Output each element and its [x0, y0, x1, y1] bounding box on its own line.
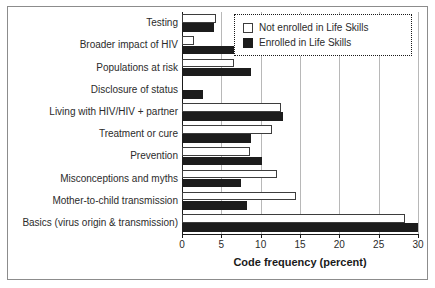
bar-not-enrolled [182, 36, 194, 45]
tick-label-30: 30 [412, 239, 423, 250]
category-label: Populations at risk [96, 62, 178, 73]
bar-not-enrolled [182, 147, 250, 156]
tick-mark-20 [339, 234, 340, 238]
category-label: Mother-to-child transmission [52, 195, 178, 206]
bar-not-enrolled [182, 14, 216, 23]
bar-enrolled [182, 46, 236, 55]
bar-group [182, 123, 418, 145]
bar-enrolled [182, 179, 241, 188]
chart-legend: Not enrolled in Life Skills Enrolled in … [234, 14, 412, 56]
tick-mark-5 [221, 234, 222, 238]
bar-group [182, 167, 418, 189]
bar-enrolled [182, 223, 418, 232]
bar-group [182, 190, 418, 212]
legend-swatch-light [243, 23, 253, 33]
category-label: Living with HIV/HIV + partner [49, 106, 178, 117]
chart-figure: 051015202530 TestingBroader impact of HI… [0, 0, 435, 288]
tick-label-20: 20 [334, 239, 345, 250]
legend-label-enrolled: Enrolled in Life Skills [259, 37, 351, 48]
tick-mark-25 [379, 234, 380, 238]
tick-label-25: 25 [373, 239, 384, 250]
bar-not-enrolled [182, 103, 281, 112]
tick-label-10: 10 [255, 239, 266, 250]
category-label: Disclosure of status [91, 84, 178, 95]
bar-enrolled [182, 23, 214, 32]
tick-mark-15 [300, 234, 301, 238]
legend-swatch-dark [243, 38, 253, 48]
category-label: Basics (virus origin & transmission) [22, 217, 178, 228]
bar-not-enrolled [182, 170, 277, 179]
tick-mark-0 [182, 234, 183, 238]
category-label: Misconceptions and myths [60, 173, 178, 184]
x-axis-title: Code frequency (percent) [182, 256, 418, 268]
legend-item-not-enrolled[interactable]: Not enrolled in Life Skills [243, 20, 404, 35]
bar-group [182, 145, 418, 167]
category-labels: TestingBroader impact of HIVPopulations … [10, 12, 178, 234]
tick-mark-30 [418, 234, 419, 238]
bar-enrolled [182, 157, 262, 166]
bar-group [182, 212, 418, 234]
tick-label-15: 15 [294, 239, 305, 250]
category-label: Broader impact of HIV [80, 39, 178, 50]
tick-label-5: 5 [219, 239, 225, 250]
bar-group [182, 79, 418, 101]
category-label: Testing [146, 17, 178, 28]
bar-enrolled [182, 90, 203, 99]
tick-mark-10 [261, 234, 262, 238]
category-label: Treatment or cure [99, 128, 178, 139]
tick-label-0: 0 [179, 239, 185, 250]
bar-not-enrolled [182, 125, 272, 134]
bar-not-enrolled [182, 59, 234, 68]
bar-group [182, 101, 418, 123]
bar-enrolled [182, 134, 251, 143]
legend-item-enrolled[interactable]: Enrolled in Life Skills [243, 35, 404, 50]
bar-enrolled [182, 68, 251, 77]
category-label: Prevention [130, 150, 178, 161]
bar-enrolled [182, 201, 247, 210]
legend-label-not-enrolled: Not enrolled in Life Skills [259, 22, 369, 33]
bar-not-enrolled [182, 214, 405, 223]
bar-enrolled [182, 112, 283, 121]
gridline-30 [418, 12, 419, 234]
bar-group [182, 56, 418, 78]
bar-not-enrolled [182, 192, 296, 201]
